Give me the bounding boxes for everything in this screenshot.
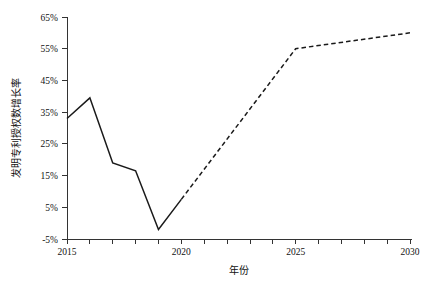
series-forecast-line <box>181 33 410 200</box>
y-tick-label-5: 5% <box>45 203 58 213</box>
y-tick-label-15: 15% <box>41 171 59 181</box>
series-historical-line <box>67 98 181 230</box>
x-tick-label-2030: 2030 <box>401 247 420 257</box>
x-axis-title: 年份 <box>229 264 249 276</box>
y-axis-tick-labels: 65% 55% 45% 35% 25% 15% 5% -5% <box>41 13 59 245</box>
y-axis-title: 发明专利授权数增长率 <box>10 78 22 178</box>
x-tick-label-2025: 2025 <box>286 247 305 257</box>
y-axis-ticks <box>62 17 67 239</box>
x-tick-label-2015: 2015 <box>58 247 77 257</box>
x-axis-tick-labels: 2015 2020 2025 2030 <box>58 247 420 257</box>
y-tick-label-45: 45% <box>41 76 59 86</box>
line-chart: 65% 55% 45% 35% 25% 15% 5% -5% <box>0 0 423 283</box>
y-tick-label-65: 65% <box>41 13 59 23</box>
x-axis-ticks-minor <box>90 239 387 244</box>
x-tick-label-2020: 2020 <box>172 247 191 257</box>
y-tick-label-35: 35% <box>41 108 59 118</box>
chart-canvas: 65% 55% 45% 35% 25% 15% 5% -5% <box>0 0 423 283</box>
y-tick-label-55: 55% <box>41 44 59 54</box>
x-axis-ticks-major <box>67 239 410 244</box>
y-tick-label-neg5: -5% <box>42 235 58 245</box>
y-tick-label-25: 25% <box>41 139 59 149</box>
